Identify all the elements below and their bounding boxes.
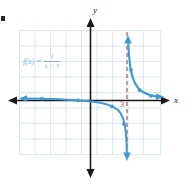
function-equation-label: f(x) = 1 x − 3 (23, 53, 60, 70)
fraction-numerator: 1 (47, 53, 57, 60)
x-tick-label-3: 3 (120, 101, 124, 109)
x-axis-label: x (174, 96, 178, 105)
curve-left-branch (19, 95, 131, 161)
curve-right-branch (124, 35, 164, 100)
fraction: 1 x − 3 (44, 53, 61, 70)
y-axis (87, 18, 95, 178)
fraction-denominator: x − 3 (44, 63, 61, 70)
equals-sign: = (36, 57, 41, 66)
coordinate-plane (0, 0, 187, 186)
function-name: f(x) (23, 57, 34, 66)
graph-figure: y x 3 f(x) = 1 x − 3 (0, 0, 187, 186)
y-axis-label: y (93, 6, 97, 15)
